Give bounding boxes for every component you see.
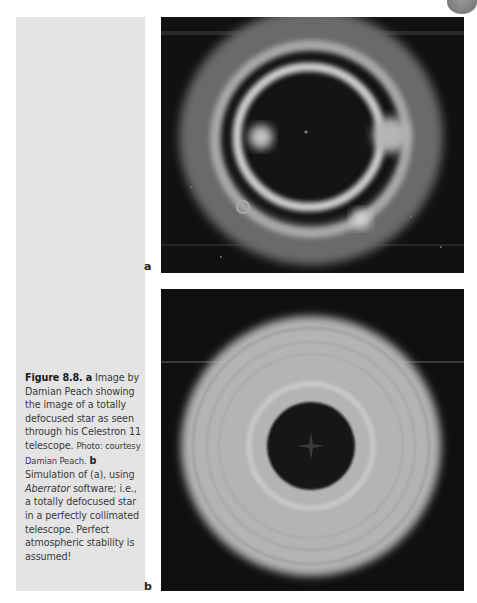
panel-label-a: a — [144, 260, 151, 273]
panel-a-text: Image by Damian Peach showing the image … — [25, 372, 141, 451]
page-edge-tab — [447, 0, 477, 14]
figure-caption: Figure 8.8. a Image by Damian Peach show… — [25, 371, 143, 563]
panel-b-text-1: Simulation of (a), using — [25, 469, 134, 480]
panel-b-ref: b — [89, 455, 96, 466]
figure-number: Figure 8.8. — [25, 372, 83, 383]
panel-label-b: b — [144, 580, 152, 593]
software-name: Aberrator — [25, 483, 70, 494]
photo-panel-a — [161, 17, 464, 273]
panel-b-text-2: software; i.e., a totally defocused star… — [25, 483, 139, 562]
simulated-defocused-star — [161, 289, 464, 591]
simulation-panel-b — [161, 289, 464, 591]
panel-a-ref: a — [86, 372, 92, 383]
defocused-star-photo — [161, 17, 464, 273]
